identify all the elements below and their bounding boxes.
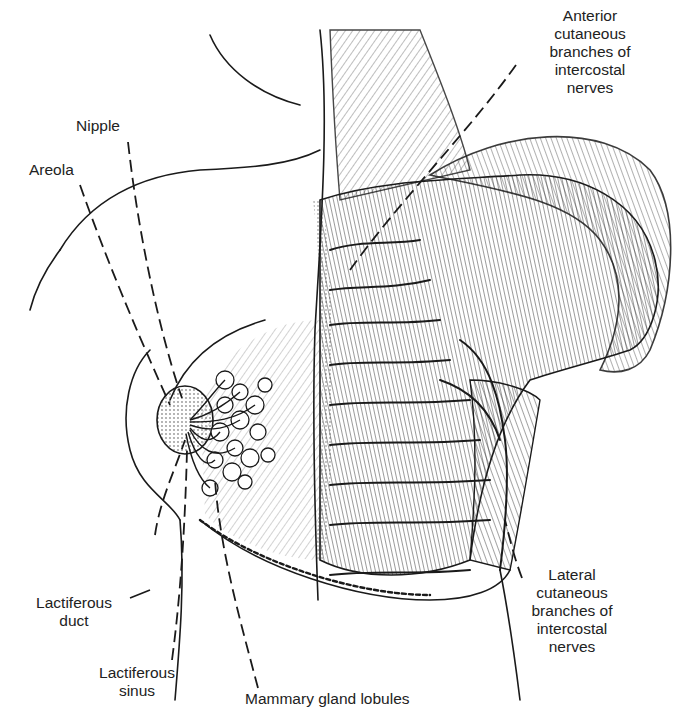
label-line: branches of <box>512 602 632 620</box>
label-line: Anterior <box>525 7 655 25</box>
label-lactiferous-sinus: Lactiferous sinus <box>87 664 187 700</box>
label-line: duct <box>24 612 124 630</box>
label-line: Lateral <box>512 566 632 584</box>
label-line: Nipple <box>76 117 120 135</box>
label-anterior-cutaneous-branches: Anterior cutaneous branches of intercost… <box>525 7 655 97</box>
label-line: nerves <box>512 638 632 656</box>
label-line: nerves <box>525 79 655 97</box>
label-line: cutaneous <box>512 584 632 602</box>
label-mammary-gland-lobules: Mammary gland lobules <box>245 690 410 708</box>
serratus-region <box>470 380 540 570</box>
label-line: Lactiferous <box>24 594 124 612</box>
label-line: Mammary gland lobules <box>245 690 410 708</box>
label-line: intercostal <box>525 61 655 79</box>
label-areola: Areola <box>29 161 74 179</box>
label-line: sinus <box>87 682 187 700</box>
duct-leader-end <box>130 590 150 598</box>
label-line: intercostal <box>512 620 632 638</box>
label-line: branches of <box>525 43 655 61</box>
label-nipple: Nipple <box>76 117 120 135</box>
label-lateral-cutaneous-branches: Lateral cutaneous branches of intercosta… <box>512 566 632 656</box>
neck-muscles <box>330 30 470 200</box>
label-line: Areola <box>29 161 74 179</box>
label-lactiferous-duct: Lactiferous duct <box>24 594 124 630</box>
label-line: cutaneous <box>525 25 655 43</box>
label-line: Lactiferous <box>87 664 187 682</box>
